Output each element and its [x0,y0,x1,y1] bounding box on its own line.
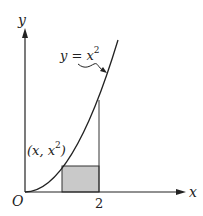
curve-equation-label: y = x2 [59,45,100,63]
origin-label: O [12,193,24,209]
y-axis-label: y [17,12,27,28]
curve-equation-exponent: 2 [94,45,100,55]
shaded-rectangle [62,166,99,192]
x-axis-label: x [189,184,197,200]
graph-svg: y x O 2 y = x2 (x, x2) [0,0,203,216]
point-label-close: ) [60,143,66,158]
label-pointer [78,64,103,70]
y-axis-arrow-icon [22,28,28,38]
point-label: (x, x2) [27,140,66,158]
label-pointer-arrow-icon [100,67,107,73]
diagram-canvas: y x O 2 y = x2 (x, x2) [0,0,203,216]
point-label-base: (x, x [27,143,56,158]
curve-equation-base: y = x [59,48,95,63]
x-tick-label: 2 [95,196,103,211]
x-axis-arrow-icon [176,189,186,195]
